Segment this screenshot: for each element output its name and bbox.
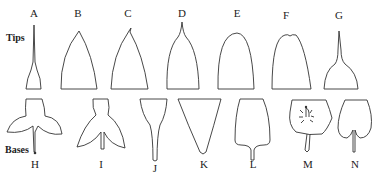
tip-e-shape — [218, 33, 254, 89]
tip-label-g: G — [335, 9, 343, 21]
row-label-bases: Bases — [5, 144, 29, 155]
tip-label-c: C — [124, 7, 131, 19]
leaf-shapes-diagram: Tips Bases A B C D E F G H I J K L M N — [0, 0, 379, 179]
base-k-shape — [178, 99, 221, 154]
base-label-i: I — [99, 158, 103, 170]
base-h-petiole-end — [34, 152, 37, 155]
base-i-shape — [77, 99, 125, 149]
base-label-k: K — [200, 158, 208, 170]
tip-label-b: B — [74, 7, 81, 19]
tip-b-shape — [61, 31, 97, 89]
tip-label-f: F — [283, 9, 289, 21]
base-n-shape — [338, 100, 372, 152]
base-m-petiole — [305, 134, 310, 152]
tip-g-shape — [324, 31, 358, 89]
row-label-tips: Tips — [6, 32, 25, 43]
tip-a-shape — [26, 25, 41, 89]
base-label-n: N — [351, 158, 359, 170]
tip-d-shape — [167, 22, 199, 89]
tip-label-d: D — [178, 7, 186, 19]
base-l-shape — [235, 99, 270, 160]
base-m-veins — [299, 107, 314, 123]
base-j-shape — [140, 99, 167, 161]
base-label-h: H — [31, 158, 39, 170]
tip-f-shape — [272, 35, 311, 89]
base-label-j: J — [153, 162, 158, 174]
tip-label-e: E — [234, 7, 241, 19]
tip-label-a: A — [30, 7, 38, 19]
tip-c-shape — [111, 28, 148, 89]
base-m-attachment — [305, 106, 307, 108]
base-label-l: L — [250, 158, 257, 170]
base-m-shape — [290, 100, 332, 135]
base-label-m: M — [303, 158, 313, 170]
